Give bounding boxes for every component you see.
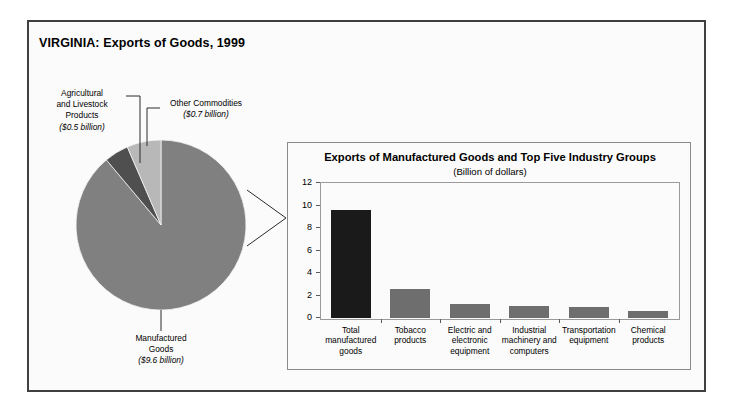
bar (390, 289, 430, 318)
x-axis-tick-mark (559, 319, 560, 323)
y-axis-tick-label: 8 (307, 222, 312, 232)
bar (331, 210, 371, 318)
x-axis-category-label-line: computers (500, 346, 560, 356)
y-axis-tick-label: 4 (307, 267, 312, 277)
pie-to-bar-connector (247, 190, 286, 246)
x-axis-tick-mark (381, 319, 382, 323)
y-axis-tick-label: 0 (307, 312, 312, 322)
y-axis-tick-label: 12 (302, 177, 312, 187)
y-axis-tick-label: 10 (302, 200, 312, 210)
x-axis-category-label: Chemicalproducts (619, 325, 679, 346)
y-axis: 024681012 (296, 182, 316, 318)
y-axis-tick-mark (316, 272, 320, 273)
bar-series (321, 183, 678, 318)
x-axis-category-label-line: goods (321, 346, 381, 356)
bar (450, 304, 490, 318)
x-axis-category-label-line: machinery and (500, 335, 560, 345)
y-axis-tick-mark (316, 317, 320, 318)
x-axis-category-label: Transportationequipment (559, 325, 619, 346)
bar (628, 311, 668, 318)
bar (509, 306, 549, 318)
x-axis-category-label: Industrialmachinery andcomputers (500, 325, 560, 356)
y-axis-tick-mark (316, 295, 320, 296)
x-axis-category-label-line: Industrial (500, 325, 560, 335)
x-axis-category-label-line: equipment (559, 335, 619, 345)
x-axis-category-label-line: Chemical (619, 325, 679, 335)
y-axis-tick-mark (316, 227, 320, 228)
pie-slices (76, 140, 246, 310)
x-axis-category-label-line: Electric and (440, 325, 500, 335)
y-axis-tick-mark (316, 182, 320, 183)
x-axis-category-label-line: products (381, 335, 441, 345)
x-axis-category-label-line: Transportation (559, 325, 619, 335)
x-axis-category-label: Tobaccoproducts (381, 325, 441, 346)
y-axis-tick-mark (316, 205, 320, 206)
x-axis-category-label-line: manufactured (321, 335, 381, 345)
y-axis-tick-mark (316, 250, 320, 251)
x-axis-tick-mark (619, 319, 620, 323)
figure-root: VIRGINIA: Exports of Goods, 1999 Agricul… (0, 0, 731, 414)
x-axis-category-label: Totalmanufacturedgoods (321, 325, 381, 356)
x-axis-category-label-line: Tobacco (381, 325, 441, 335)
bar-chart-title: Exports of Manufactured Goods and Top Fi… (288, 151, 692, 163)
x-axis-category-label: Electric andelectronicequipment (440, 325, 500, 356)
x-axis-category-label-line: equipment (440, 346, 500, 356)
x-axis-category-label-line: electronic (440, 335, 500, 345)
x-axis-category-label-line: Total (321, 325, 381, 335)
y-axis-tick-label: 6 (307, 245, 312, 255)
x-axis-category-label-line: products (619, 335, 679, 345)
y-axis-tick-label: 2 (307, 290, 312, 300)
x-axis-tick-mark (440, 319, 441, 323)
bar-chart-subtitle: (Billion of dollars) (288, 166, 692, 177)
x-axis-tick-mark (500, 319, 501, 323)
bar (569, 307, 609, 318)
